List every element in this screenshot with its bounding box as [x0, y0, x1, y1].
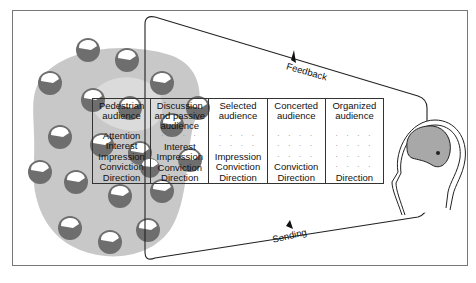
head-icon: [115, 48, 139, 72]
head-icon: [108, 184, 132, 208]
stage-row-empty: · · · ·: [335, 131, 373, 142]
stage-row: Interest: [106, 141, 138, 152]
stage-header: Concerted audience: [274, 101, 318, 131]
stage-row: Conviction: [99, 162, 143, 173]
audience-stages-table: Pedestrian audience Attention Interest I…: [92, 98, 384, 184]
head-icon: [48, 125, 72, 149]
head-icon: [38, 71, 62, 95]
stage-row-empty: · · · ·: [219, 141, 257, 152]
speaker-head-icon: [392, 120, 465, 215]
stage-row: Direction: [161, 173, 199, 184]
stage-row-empty: · · · ·: [277, 131, 315, 142]
head-icon: [64, 170, 88, 194]
stage-header-line: audience: [274, 111, 318, 121]
stage-row-empty: · · · ·: [335, 141, 373, 152]
stage-column-pedestrian: Pedestrian audience Attention Interest I…: [93, 99, 151, 183]
head-icon: [136, 218, 160, 242]
stage-header-line: audience: [219, 111, 258, 121]
head-icon: [76, 38, 100, 62]
head-icon: [28, 160, 52, 184]
stage-row-empty: · · · ·: [335, 162, 373, 173]
stage-header: Pedestrian audience: [99, 101, 144, 131]
head-icon: [150, 71, 174, 95]
stage-row-empty: · · · ·: [277, 141, 315, 152]
head-icon: [58, 216, 82, 240]
stage-header: Selected audience: [219, 101, 258, 131]
stage-row: Direction: [336, 173, 374, 184]
stage-row-empty: · · · ·: [335, 152, 373, 163]
diagram-stage: Feedback Sending Pedestrian audience Att…: [0, 0, 476, 283]
stage-row: Direction: [219, 173, 257, 184]
stage-row: Direction: [103, 173, 141, 184]
sending-arrow-icon: [286, 220, 293, 229]
stage-row: Impression: [157, 152, 203, 163]
stage-row-empty: · · · ·: [219, 131, 257, 142]
stage-header-line: audience: [154, 121, 205, 131]
stage-row-empty: · · · ·: [161, 131, 199, 142]
stage-row: Conviction: [274, 162, 318, 173]
stage-header: Organized audience: [332, 101, 376, 131]
stage-header: Discussion and passive audience: [154, 101, 205, 131]
head-icon: [98, 230, 122, 254]
stage-row: Conviction: [216, 162, 260, 173]
stage-row: Direction: [277, 173, 315, 184]
stage-column-concerted: Concerted audience · · · · · · · · · · ·…: [268, 99, 326, 183]
stage-header-line: audience: [332, 111, 376, 121]
stage-column-discussion: Discussion and passive audience · · · · …: [151, 99, 209, 183]
stage-header-line: audience: [99, 111, 144, 121]
stage-column-selected: Selected audience · · · · · · · · Impres…: [209, 99, 267, 183]
stage-column-organized: Organized audience · · · · · · · · · · ·…: [326, 99, 383, 183]
